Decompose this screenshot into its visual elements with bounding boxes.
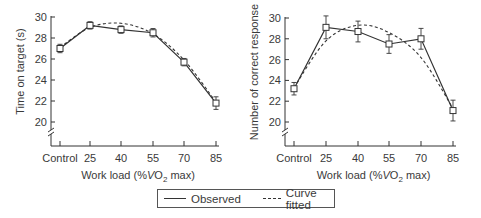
legend: Observed Curve fitted (157, 189, 335, 208)
right-chart: 302826242220Control2540557085Work load (… (248, 4, 459, 184)
x-tick-label: 40 (115, 152, 127, 164)
y-tick-label: 28 (269, 33, 281, 45)
x-tick-label: 70 (178, 152, 190, 164)
y-tick-label: 24 (35, 74, 47, 86)
data-point-square-icon (291, 86, 297, 92)
y-tick-label: 20 (269, 116, 281, 128)
x-tick-label: Control (276, 152, 311, 164)
y-tick-label: 22 (35, 95, 47, 107)
y-axis-title: Time on target (s) (14, 28, 26, 114)
data-point-square-icon (213, 100, 219, 106)
x-tick-label: Control (42, 152, 77, 164)
data-point-square-icon (386, 41, 392, 47)
data-point-square-icon (450, 108, 456, 114)
y-tick-label: 30 (269, 12, 281, 24)
y-tick-label: 24 (269, 74, 281, 86)
legend-label-observed: Observed (191, 193, 241, 205)
x-tick-label: 55 (147, 152, 159, 164)
data-point-square-icon (355, 29, 361, 35)
y-axis-title: Number of correct response (248, 4, 260, 140)
data-point-square-icon (118, 27, 124, 33)
legend-label-fitted: Curve fitted (286, 187, 334, 211)
fitted-curve (60, 23, 216, 102)
x-tick-label: 85 (210, 152, 222, 164)
y-tick-label: 30 (35, 11, 47, 23)
data-point-square-icon (150, 30, 156, 36)
x-tick-label: 25 (320, 152, 332, 164)
y-tick-label: 26 (269, 54, 281, 66)
data-point-square-icon (323, 24, 329, 30)
legend-item-fitted: Curve fitted (241, 187, 334, 211)
y-tick-label: 28 (35, 32, 47, 44)
x-tick-label: 40 (352, 152, 364, 164)
legend-item-observed: Observed (158, 193, 241, 205)
dashed-line-icon (263, 198, 281, 199)
observed-line (60, 25, 216, 103)
y-tick-label: 20 (35, 116, 47, 128)
data-point-square-icon (57, 46, 63, 52)
figure-canvas: 302826242220Control2540557085Work load (… (0, 0, 481, 218)
observed-line (294, 27, 453, 110)
y-tick-label: 26 (35, 53, 47, 65)
data-point-square-icon (181, 59, 187, 65)
x-tick-label: 55 (383, 152, 395, 164)
data-point-square-icon (87, 22, 93, 28)
y-tick-label: 22 (269, 95, 281, 107)
x-axis-title: Work load (%VO2 max) (317, 169, 431, 184)
x-tick-label: 70 (415, 152, 427, 164)
left-chart: 302826242220Control2540557085Work load (… (14, 11, 222, 184)
x-tick-label: 25 (84, 152, 96, 164)
x-axis-title: Work load (%VO2 max) (81, 169, 195, 184)
solid-line-icon (164, 198, 186, 199)
x-tick-label: 85 (447, 152, 459, 164)
data-point-square-icon (418, 36, 424, 42)
